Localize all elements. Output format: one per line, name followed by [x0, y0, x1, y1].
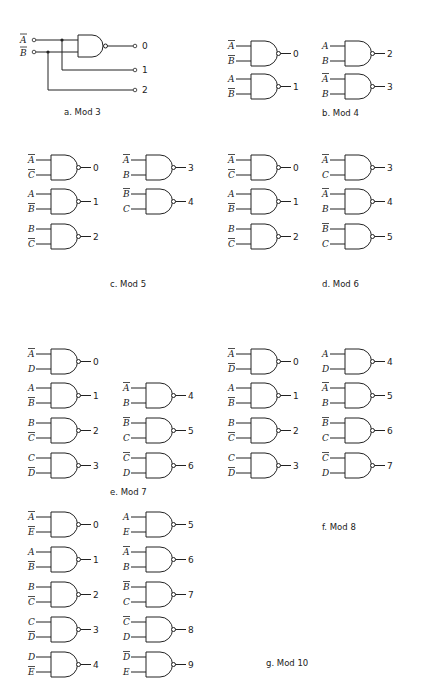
inversion-bubble	[277, 394, 281, 398]
inversion-bubble	[277, 166, 281, 170]
output-label: 4	[387, 197, 393, 207]
nand-gate-6: BC6	[321, 418, 393, 444]
input-label: B	[321, 418, 329, 428]
input-label: A	[122, 383, 130, 393]
nand-gate-8: CD8	[122, 617, 194, 643]
input-label: A	[27, 383, 35, 393]
inversion-bubble	[172, 628, 176, 632]
nand-gate-2: BC2	[227, 224, 299, 249]
nand-gate-body	[146, 453, 172, 478]
nand-gate-body	[51, 547, 78, 572]
inversion-bubble	[172, 593, 176, 597]
input-label: C	[28, 170, 35, 180]
inversion-bubble	[277, 360, 281, 364]
caption-e: e. Mod 7	[110, 487, 147, 497]
input-label: B	[122, 562, 130, 572]
output-label: 4	[188, 391, 194, 401]
input-label: B	[122, 189, 130, 199]
nand-gate-body	[345, 349, 372, 374]
nand-gate-3: CD3	[27, 453, 99, 478]
inversion-bubble	[172, 166, 176, 170]
nand-gate-body	[251, 155, 278, 180]
inversion-bubble	[77, 429, 81, 433]
input-label-b: B	[19, 48, 27, 58]
input-label: C	[28, 433, 35, 443]
output-label: 7	[188, 590, 194, 600]
inversion-bubble	[371, 429, 375, 433]
input-label: A	[321, 155, 329, 165]
nand-gate-1: AB1	[227, 189, 299, 214]
output-label: 7	[387, 461, 393, 471]
nand-gate-body	[51, 617, 78, 642]
nand-gate-6: CD6	[122, 453, 194, 479]
nand-gate-3: AB3	[122, 155, 194, 181]
inversion-bubble	[77, 558, 81, 562]
output-label: 5	[188, 520, 194, 530]
nand-gate-0: AD0	[227, 349, 299, 375]
input-label: C	[228, 170, 235, 180]
input-label: A	[227, 189, 235, 199]
nand-gate-4: BC4	[122, 189, 194, 215]
input-label: A	[27, 547, 35, 557]
nand-gate-body	[51, 383, 78, 408]
nand-gate-body	[345, 453, 372, 478]
input-label: B	[321, 89, 329, 99]
input-label: A	[321, 74, 329, 84]
input-label: C	[322, 453, 329, 463]
inversion-bubble	[371, 360, 375, 364]
input-label: B	[27, 204, 35, 214]
input-label: A	[321, 349, 329, 359]
inversion-bubble	[277, 200, 281, 204]
nand-gate-0: AB0	[227, 41, 299, 67]
nand-gate-4: DE4	[27, 652, 99, 677]
output-label: 0	[93, 163, 99, 173]
figure-c: AC0AB1BC2AB3BC4c. Mod 5	[27, 155, 194, 290]
input-label: E	[122, 667, 130, 677]
input-label: C	[228, 239, 235, 249]
output-label: 2	[387, 49, 393, 59]
nand-gate-1: AB1	[27, 189, 99, 214]
input-label: A	[227, 383, 235, 393]
input-label: A	[27, 512, 35, 522]
input-label: C	[322, 239, 329, 249]
input-label: B	[227, 89, 235, 99]
inversion-bubble	[371, 464, 375, 468]
nand-gate-1: AB1	[27, 383, 99, 408]
inversion-bubble	[172, 394, 176, 398]
inversion-bubble	[371, 85, 375, 89]
nand-gate-2: AB2	[321, 41, 393, 66]
input-label: E	[122, 527, 130, 537]
output-label: 3	[387, 82, 393, 92]
output-label: 1	[93, 555, 99, 565]
nand-gate-body	[251, 224, 278, 249]
output-label: 9	[188, 660, 194, 670]
input-label: E	[27, 527, 35, 537]
nand-gate-body	[146, 652, 172, 677]
input-label: C	[322, 433, 329, 443]
nand-gate-1: AB1	[27, 547, 99, 572]
input-label: B	[321, 204, 329, 214]
nand-gate-body	[251, 189, 277, 214]
inversion-bubble	[77, 394, 81, 398]
output-label: 0	[93, 357, 99, 367]
nand-gate-body	[51, 512, 78, 537]
inversion-bubble	[77, 235, 81, 239]
nand-gate-body	[251, 74, 277, 99]
nand-gate-body	[345, 189, 371, 214]
input-label: C	[228, 433, 235, 443]
nand-gate-0: AD0	[27, 349, 99, 375]
nand-gate-5: AE5	[122, 512, 194, 537]
input-label: A	[227, 155, 235, 165]
output-label: 2	[93, 426, 99, 436]
inversion-bubble	[77, 593, 81, 597]
output-label: 1	[93, 197, 99, 207]
output-label: 3	[188, 163, 194, 173]
nand-gate-body	[146, 512, 172, 537]
nand-gate-9: DE9	[122, 652, 194, 678]
nand-gate-body	[146, 617, 172, 642]
inversion-bubble	[277, 52, 281, 56]
nand-gate-2: BC2	[27, 582, 99, 607]
input-label: B	[122, 170, 130, 180]
nand-gate-body	[251, 453, 278, 478]
input-label: C	[123, 433, 130, 443]
